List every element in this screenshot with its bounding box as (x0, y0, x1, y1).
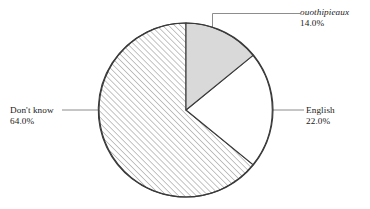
pie-label-english-name: English (306, 105, 335, 116)
pie-label-english-percent: 22.0% (306, 116, 335, 127)
pie-label-ouothipieaux-percent: 14.0% (300, 18, 349, 29)
pie-label-english: English 22.0% (306, 105, 335, 128)
pie-label-dontknow: Don't know 64.0% (10, 105, 54, 128)
pie-label-dontknow-percent: 64.0% (10, 116, 54, 127)
pie-label-dontknow-name: Don't know (10, 105, 54, 116)
pie-label-ouothipieaux-name: ouothipieaux (300, 7, 349, 18)
pie-label-ouothipieaux: ouothipieaux 14.0% (300, 7, 349, 30)
pie-chart: ouothipieaux 14.0% English 22.0% Don't k… (0, 0, 370, 209)
